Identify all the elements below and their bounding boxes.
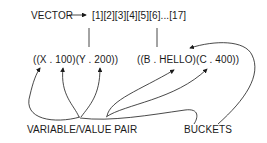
vector-label: VECTOR	[31, 10, 73, 21]
bucket-2: ((B . HELLO)(C . 400))	[137, 54, 239, 65]
pair-baseline-curve	[80, 110, 197, 124]
label-variable-value-pair: VARIABLE/VALUE PAIR	[27, 124, 137, 135]
vector-slots: [1][2][3][4][5][6]...[17]	[92, 10, 186, 21]
pair-arrow-x	[29, 68, 80, 120]
pair-arrow-y-right	[81, 68, 100, 117]
pair-arrow-b	[107, 70, 174, 116]
label-buckets: BUCKETS	[184, 124, 232, 135]
bucket-1: ((X . 100)(Y . 200))	[33, 54, 118, 65]
diagram-lines	[0, 0, 267, 143]
pair-arrow-y-left	[63, 68, 79, 117]
